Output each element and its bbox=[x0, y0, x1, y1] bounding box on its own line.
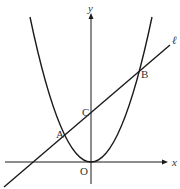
y-axis-label: y bbox=[87, 2, 93, 14]
line-label: ℓ bbox=[172, 34, 177, 46]
point-a-label: A bbox=[56, 128, 64, 140]
x-axis-arrow-icon bbox=[162, 160, 168, 165]
origin-label: O bbox=[80, 165, 88, 177]
y-axis bbox=[89, 13, 94, 184]
x-axis-label: x bbox=[171, 156, 177, 168]
diagram-canvas: x y O ℓ A B C bbox=[0, 0, 180, 189]
point-c-label: C bbox=[82, 106, 89, 118]
point-b-label: B bbox=[141, 68, 148, 80]
x-axis bbox=[5, 160, 168, 165]
